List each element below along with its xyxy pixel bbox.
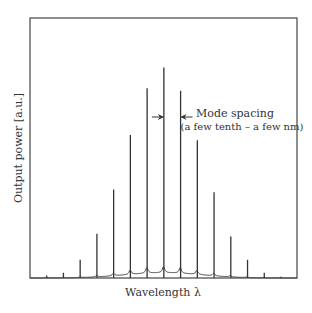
mode-spacing-annotation: Mode spacing (a few tenth – a few nm): [152, 107, 304, 132]
y-axis-label: Output power [a.u.]: [12, 93, 25, 203]
annotation-line1: Mode spacing: [196, 107, 274, 120]
annotation-line2: (a few tenth – a few nm): [181, 121, 304, 132]
x-axis-label: Wavelength λ: [125, 286, 201, 299]
chart: Mode spacing (a few tenth – a few nm) Wa…: [0, 0, 312, 313]
